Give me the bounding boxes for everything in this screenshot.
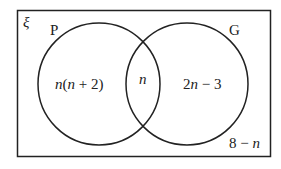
universal-set-symbol: ξ: [23, 14, 30, 30]
g-only-n: n: [191, 76, 199, 92]
set-g-label: G: [229, 22, 240, 38]
g-only-rest: − 3: [198, 76, 221, 92]
outside-lead: 8 −: [229, 135, 252, 151]
p-only-region-value: n(n + 2): [55, 76, 103, 93]
g-only-region-value: 2n − 3: [183, 76, 221, 92]
g-only-lead: 2: [183, 76, 191, 92]
set-p-label: P: [50, 22, 58, 38]
p-only-close: + 2): [75, 76, 103, 93]
outside-region-value: 8 − n: [229, 135, 260, 151]
p-only-n: n: [55, 76, 63, 92]
venn-diagram: ξ P G n(n + 2) n 2n − 3 8 − n: [0, 0, 281, 169]
intersection-region-value: n: [139, 71, 147, 87]
outside-n: n: [252, 135, 260, 151]
p-only-n2: n: [68, 76, 76, 92]
